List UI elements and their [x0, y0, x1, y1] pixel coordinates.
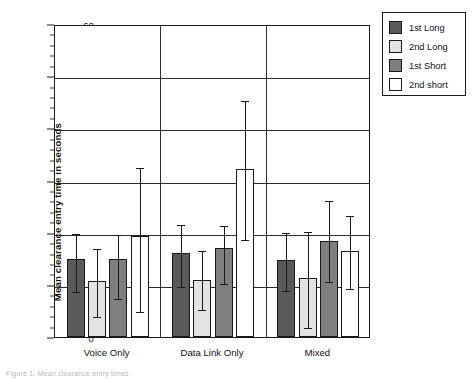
error-bar	[308, 232, 309, 328]
legend-label: 2nd short	[409, 80, 448, 90]
error-bar-cap-lower	[72, 292, 80, 293]
error-bar-cap-upper	[93, 249, 101, 250]
legend-label: 1st Long	[409, 23, 445, 33]
group-divider	[266, 26, 267, 337]
legend: 1st Long2nd Long1st Short2nd short	[382, 12, 466, 96]
error-bar	[76, 234, 77, 292]
error-bar-cap-upper	[241, 101, 249, 102]
gridline	[55, 235, 369, 236]
error-bar-cap-upper	[72, 234, 80, 235]
legend-swatch	[389, 21, 402, 34]
error-bar-cap-lower	[198, 310, 206, 311]
error-bar-cap-upper	[114, 235, 122, 236]
legend-swatch	[389, 40, 402, 53]
error-bar-cap-upper	[177, 225, 185, 226]
error-bar-cap-lower	[325, 282, 333, 283]
x-axis-group-label: Data Link Only	[181, 347, 244, 358]
legend-label: 1st Short	[409, 61, 446, 71]
gridline	[55, 78, 369, 79]
x-axis-group-label: Mixed	[305, 347, 331, 358]
figure-container: Mean clearance entry time in seconds 010…	[0, 0, 472, 379]
legend-swatch	[389, 78, 402, 91]
gridline	[55, 183, 369, 184]
error-bar	[350, 216, 351, 290]
error-bar-cap-upper	[198, 251, 206, 252]
error-bar	[286, 233, 287, 291]
gridline	[55, 130, 369, 131]
legend-item[interactable]: 2nd Long	[383, 37, 465, 56]
error-bar	[202, 251, 203, 309]
error-bar-cap-lower	[304, 328, 312, 329]
error-bar-cap-upper	[282, 233, 290, 234]
error-bar	[118, 235, 119, 300]
y-tick-major	[47, 77, 54, 78]
error-bar-cap-upper	[136, 168, 144, 169]
error-bar-cap-lower	[114, 299, 122, 300]
error-bar	[329, 201, 330, 281]
error-bar-cap-lower	[220, 284, 228, 285]
error-bar-cap-upper	[325, 201, 333, 202]
x-axis-group-label: Voice Only	[84, 347, 130, 358]
error-bar-cap-lower	[346, 289, 354, 290]
y-axis-title: Mean clearance entry time in seconds	[52, 123, 63, 301]
error-bar-cap-upper	[346, 216, 354, 217]
legend-item[interactable]: 1st Short	[383, 56, 465, 75]
legend-label: 2nd Long	[409, 42, 448, 52]
error-bar-cap-upper	[304, 232, 312, 233]
error-bar	[181, 225, 182, 287]
legend-item[interactable]: 2nd short	[383, 75, 465, 94]
error-bar-cap-lower	[177, 287, 185, 288]
legend-swatch	[389, 59, 402, 72]
y-tick-major	[47, 25, 54, 26]
error-bar-cap-lower	[282, 291, 290, 292]
error-bar-cap-lower	[241, 240, 249, 241]
error-bar	[97, 249, 98, 317]
error-bar-cap-upper	[220, 226, 228, 227]
y-tick-major	[47, 338, 54, 339]
figure-caption: Figure 1. Mean clearance entry times	[6, 370, 129, 377]
plot-area	[54, 25, 370, 338]
error-bar	[140, 168, 141, 312]
error-bar	[224, 226, 225, 283]
error-bar-cap-lower	[93, 317, 101, 318]
legend-item[interactable]: 1st Long	[383, 18, 465, 37]
error-bar-cap-lower	[136, 312, 144, 313]
group-divider	[160, 26, 161, 337]
error-bar	[245, 101, 246, 240]
